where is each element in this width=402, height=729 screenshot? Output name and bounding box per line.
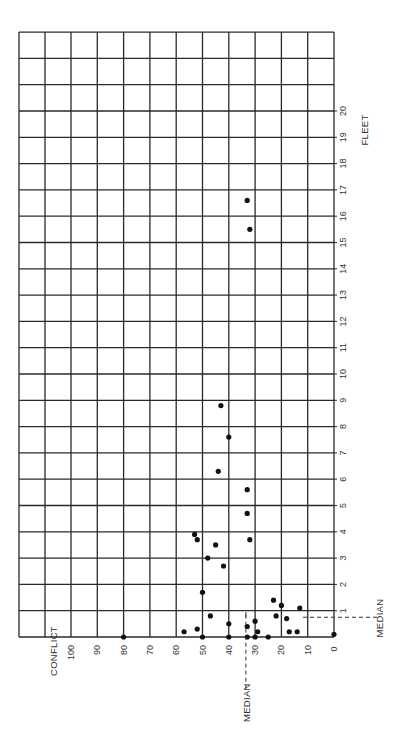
fleet-tick-label: 14 bbox=[338, 264, 348, 274]
fleet-tick-label: 2 bbox=[338, 582, 348, 587]
data-point bbox=[213, 542, 218, 547]
fleet-tick-label: 4 bbox=[338, 529, 348, 534]
data-point bbox=[279, 603, 284, 608]
fleet-tick-label: 1 bbox=[338, 608, 348, 613]
data-point bbox=[192, 532, 197, 537]
data-point bbox=[226, 634, 231, 639]
conflict-tick-label: 20 bbox=[276, 645, 286, 655]
data-point bbox=[226, 435, 231, 440]
data-point bbox=[297, 605, 302, 610]
data-point bbox=[221, 563, 226, 568]
fleet-tick-label: 11 bbox=[338, 343, 348, 352]
fleet-median-label: MEDIAN bbox=[374, 599, 385, 638]
data-point bbox=[287, 629, 292, 634]
data-point bbox=[245, 511, 250, 516]
conflict-tick-label: 0 bbox=[329, 646, 339, 651]
fleet-tick-label: 15 bbox=[338, 237, 348, 247]
fleet-tick-label: 9 bbox=[338, 398, 348, 403]
data-point bbox=[266, 634, 271, 639]
data-point bbox=[331, 632, 336, 637]
conflict-tick-label: 100 bbox=[66, 645, 76, 660]
data-point bbox=[226, 621, 231, 626]
data-point bbox=[247, 227, 252, 232]
fleet-tick-label: 5 bbox=[338, 503, 348, 508]
data-point bbox=[245, 624, 250, 629]
data-point bbox=[195, 627, 200, 632]
conflict-tick-label: 70 bbox=[145, 645, 155, 655]
conflict-tick-label: 10 bbox=[303, 645, 313, 655]
fleet-tick-label: 17 bbox=[338, 185, 348, 195]
data-point bbox=[255, 629, 260, 634]
conflict-tick-label: 80 bbox=[119, 645, 129, 655]
fleet-tick-label: 3 bbox=[338, 556, 348, 561]
conflict-axis-title: CONFLICT bbox=[48, 626, 59, 676]
fleet-tick-label: 20 bbox=[338, 106, 348, 116]
fleet-tick-label: 18 bbox=[338, 159, 348, 169]
fleet-tick-label: 10 bbox=[338, 369, 348, 379]
data-point bbox=[121, 634, 126, 639]
fleet-axis-title: FLEET bbox=[359, 114, 370, 145]
axis-ticks: 1234567891011121314151617181920010090807… bbox=[66, 106, 348, 660]
fleet-tick-label: 13 bbox=[338, 290, 348, 300]
fleet-tick-label: 16 bbox=[338, 211, 348, 221]
conflict-tick-label: 50 bbox=[198, 645, 208, 655]
scatter-chart: 1234567891011121314151617181920010090807… bbox=[0, 0, 402, 729]
fleet-tick-label: 6 bbox=[338, 477, 348, 482]
fleet-tick-label: 12 bbox=[338, 316, 348, 326]
conflict-tick-label: 90 bbox=[92, 645, 102, 655]
data-point bbox=[274, 613, 279, 618]
data-point bbox=[245, 487, 250, 492]
conflict-tick-label: 60 bbox=[171, 645, 181, 655]
conflict-tick-label: 30 bbox=[250, 645, 260, 655]
chart-grid bbox=[19, 32, 334, 637]
data-point bbox=[284, 616, 289, 621]
data-point bbox=[200, 590, 205, 595]
data-point bbox=[218, 403, 223, 408]
data-point bbox=[216, 469, 221, 474]
fleet-tick-label: 19 bbox=[338, 132, 348, 142]
fleet-tick-label: 7 bbox=[338, 450, 348, 455]
data-point bbox=[295, 629, 300, 634]
data-point bbox=[271, 598, 276, 603]
data-point bbox=[245, 634, 250, 639]
data-point bbox=[181, 629, 186, 634]
data-point bbox=[245, 198, 250, 203]
data-point bbox=[200, 634, 205, 639]
data-point bbox=[195, 537, 200, 542]
data-point bbox=[247, 537, 252, 542]
fleet-tick-label: 8 bbox=[338, 424, 348, 429]
conflict-median-label: MEDIAN bbox=[241, 683, 252, 722]
data-point bbox=[253, 619, 258, 624]
conflict-tick-label: 40 bbox=[224, 645, 234, 655]
data-point bbox=[208, 613, 213, 618]
data-point bbox=[205, 556, 210, 561]
data-point bbox=[253, 634, 258, 639]
